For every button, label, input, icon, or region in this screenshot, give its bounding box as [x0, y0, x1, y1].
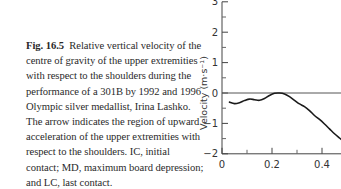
chart-axes [222, 2, 341, 154]
y-tick-label: 0 [212, 88, 218, 99]
velocity-chart: 3210−1−200.20.4 Velocity (m·s⁻¹) [0, 0, 341, 189]
y-tick-label: 3 [212, 0, 218, 7]
x-tick-label: 0.2 [264, 159, 280, 170]
y-tick-label: 2 [212, 27, 218, 38]
chart-ticks [222, 2, 322, 154]
y-axis-title: Velocity (m·s⁻¹) [198, 56, 209, 130]
y-tick-label: −2 [203, 148, 218, 159]
y-tick-label: 1 [212, 57, 218, 68]
velocity-curve [230, 93, 341, 140]
x-tick-label: 0.4 [314, 159, 330, 170]
x-tick-label: 0 [219, 159, 225, 170]
